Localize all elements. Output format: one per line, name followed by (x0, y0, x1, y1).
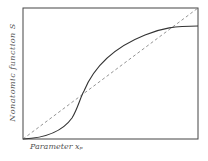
x-axis-label: Parameter xₚ (30, 142, 83, 151)
y-axis-label: Nonatomic function S (8, 23, 17, 123)
chart (0, 0, 208, 161)
s-curve-line (23, 26, 198, 139)
